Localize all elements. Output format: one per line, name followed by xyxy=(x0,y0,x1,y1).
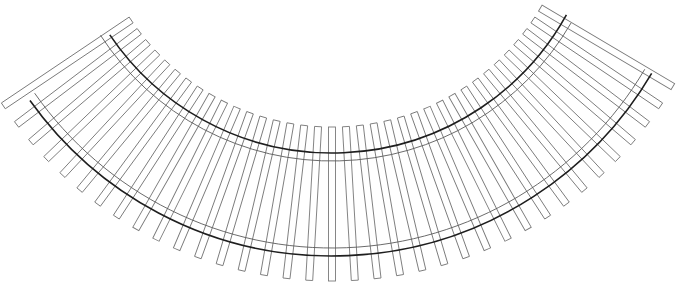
track-diagram xyxy=(0,0,688,302)
track-tie xyxy=(306,126,322,280)
ties-group xyxy=(1,5,674,281)
track-tie xyxy=(342,126,358,280)
track-tie xyxy=(329,127,336,281)
